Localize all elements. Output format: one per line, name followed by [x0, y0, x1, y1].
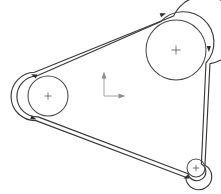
belt-arrow-top: [160, 11, 167, 17]
coordinate-origin-marker: [102, 72, 126, 99]
medium-pulley: [28, 76, 68, 116]
diagram-svg: [0, 0, 221, 194]
small-pulley-center-mark: [193, 165, 199, 171]
medium-pulley-center-mark: [44, 92, 51, 99]
origin-x-axis-arrow-icon: [119, 94, 126, 99]
belt-arrow-upper-left: [30, 72, 37, 78]
small-pulley: [187, 159, 205, 177]
origin-y-axis-arrow-icon: [102, 72, 107, 79]
belt-arrow-right: [207, 46, 212, 52]
belt-drive-diagram: [0, 0, 221, 194]
large-pulley: [146, 20, 206, 80]
large-pulley-center-mark: [172, 46, 181, 55]
